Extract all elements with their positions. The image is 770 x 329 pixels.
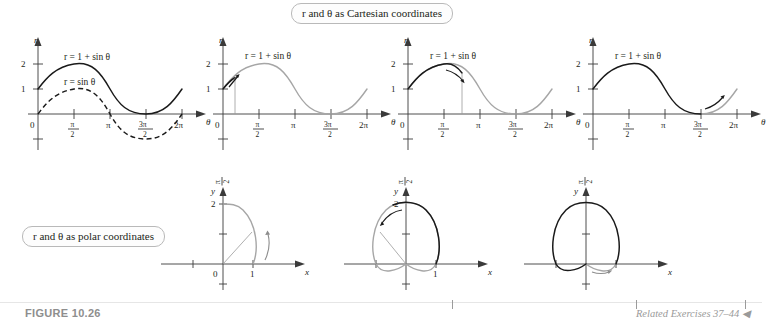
- x-axis-label: x: [304, 267, 309, 277]
- svg-text:2: 2: [698, 130, 702, 139]
- svg-text:π: π: [626, 120, 630, 129]
- svg-text:π: π: [576, 180, 585, 184]
- svg-text:3π: 3π: [694, 120, 702, 129]
- curve-traced-segment: [408, 64, 462, 89]
- x-tick-3pi-over-2: 3π 2: [693, 120, 708, 139]
- axes-polar-2: [344, 187, 488, 290]
- svg-text:2: 2: [441, 130, 445, 139]
- y-tick-1: 1: [576, 84, 581, 94]
- x-tick-3pi-over-2: 3π 2: [138, 120, 153, 139]
- curve-label-cardioid: r = 1 + sin θ: [245, 51, 292, 61]
- x-tick-1: 1: [250, 269, 255, 279]
- y-tick-2: 2: [394, 199, 399, 209]
- panel-cartesian-2: r θ 1 2 0 π 2 π 3π 2 2π r = 1 + sin θ: [201, 32, 401, 162]
- x-axis-label: x: [667, 267, 672, 277]
- panel-cartesian-3: r θ 1 2 0 π 2 π 3π 2 2π r = 1 + sin θ: [386, 32, 586, 162]
- y-axis-label: r: [34, 35, 38, 45]
- y-tick-2: 2: [21, 59, 26, 69]
- y-tick-2: 2: [206, 59, 211, 69]
- axes-polar-3: [524, 187, 668, 290]
- svg-text:3π: 3π: [139, 120, 147, 129]
- svg-text:π: π: [256, 120, 260, 129]
- panel-polar-3: y x π 2: [518, 172, 703, 297]
- footer-divider: [0, 302, 762, 303]
- footer-tick-1: [452, 300, 453, 309]
- x-tick-2pi: 2π: [544, 120, 554, 130]
- svg-text:2: 2: [585, 180, 594, 184]
- curve-cardioid-polar: [223, 204, 256, 264]
- x-tick-pi-over-2: π 2: [68, 120, 79, 139]
- panel-polar-2: y x π 2 1 2: [338, 172, 523, 297]
- curve-label-cardioid: r = 1 + sin θ: [430, 51, 477, 61]
- x-tick-0: 0: [585, 120, 590, 130]
- curve-closing-arc: [586, 264, 616, 271]
- y-tick-2: 2: [576, 59, 581, 69]
- panel-cartesian-1: r θ 1 2 0 π 2 π 3π 2 2π r = 1 + sin θ r …: [16, 32, 216, 162]
- x-tick-pi: π: [476, 120, 481, 130]
- x-tick-pi-over-2: π 2: [438, 120, 449, 139]
- y-tick-1: 1: [206, 84, 211, 94]
- y-axis-label: r: [404, 35, 408, 45]
- svg-text:2: 2: [328, 130, 332, 139]
- svg-text:π: π: [441, 120, 445, 129]
- curve-traced-segment: [593, 64, 701, 114]
- rotation-arrow: [265, 231, 270, 260]
- figure-number: FIGURE 10.26: [25, 307, 101, 319]
- y-tick-1: 1: [21, 84, 26, 94]
- svg-text:π: π: [71, 120, 75, 129]
- x-tick-pi: π: [291, 120, 296, 130]
- curve-cardioid-cartesian: [38, 64, 182, 114]
- curve-label-cardioid: r = 1 + sin θ: [615, 51, 662, 61]
- curve-cardioid-cartesian-gray: [223, 64, 367, 114]
- radius-segment: [380, 232, 406, 264]
- x-tick-1: 1: [433, 269, 438, 279]
- svg-text:2: 2: [143, 130, 147, 139]
- panel-polar-1: y x π 2 0 1 2: [155, 172, 335, 297]
- x-tick-2pi: 2π: [729, 120, 739, 130]
- y-axis-label: r: [219, 35, 223, 45]
- svg-text:π: π: [213, 180, 222, 184]
- x-tick-2pi: 2π: [359, 120, 369, 130]
- svg-text:2: 2: [405, 180, 414, 184]
- svg-text:2: 2: [513, 130, 517, 139]
- curve-traced-arc: [393, 202, 439, 264]
- y-axis-label: y: [573, 186, 578, 196]
- radius-segment: [223, 232, 252, 264]
- callout-polar: r and θ as polar coordinates: [22, 226, 165, 247]
- curve-cardioid-cartesian-gray: [408, 64, 552, 114]
- curve-label-cardioid: r = 1 + sin θ: [64, 52, 111, 62]
- x-tick-0: 0: [215, 120, 220, 130]
- x-tick-0: 0: [30, 120, 35, 130]
- y-axis-label: y: [393, 186, 398, 196]
- svg-text:π: π: [396, 180, 405, 184]
- svg-text:2: 2: [256, 130, 260, 139]
- origin-label: 0: [213, 269, 218, 279]
- curve-label-sine: r = sin θ: [64, 77, 96, 87]
- x-tick-3pi-over-2: 3π 2: [323, 120, 338, 139]
- svg-text:3π: 3π: [324, 120, 332, 129]
- x-tick-pi: π: [661, 120, 666, 130]
- x-axis-label: θ: [761, 117, 766, 127]
- polar-top-label: π 2: [396, 177, 414, 186]
- axes-polar-1: [161, 187, 305, 290]
- polar-top-label: π 2: [576, 177, 594, 186]
- related-exercises: Related Exercises 37–44 ◀: [636, 307, 750, 319]
- callout-cartesian: r and θ as Cartesian coordinates: [291, 3, 453, 24]
- svg-text:2: 2: [222, 180, 231, 184]
- x-tick-pi-over-2: π 2: [623, 120, 634, 139]
- x-tick-pi: π: [106, 120, 111, 130]
- curve-traced-segment: [223, 78, 235, 90]
- panel-cartesian-4: r θ 1 2 0 π 2 π 3π 2 2π r = 1 + sin θ: [571, 32, 770, 162]
- x-axis-label: x: [487, 267, 492, 277]
- y-axis-label: y: [210, 186, 215, 196]
- svg-text:2: 2: [626, 130, 630, 139]
- x-tick-0: 0: [400, 120, 405, 130]
- x-tick-pi-over-2: π 2: [253, 120, 264, 139]
- y-tick-2: 2: [211, 199, 216, 209]
- x-tick-3pi-over-2: 3π 2: [508, 120, 523, 139]
- y-tick-2: 2: [391, 59, 396, 69]
- y-axis-label: r: [589, 35, 593, 45]
- x-tick-2pi: 2π: [174, 120, 184, 130]
- svg-text:2: 2: [71, 130, 75, 139]
